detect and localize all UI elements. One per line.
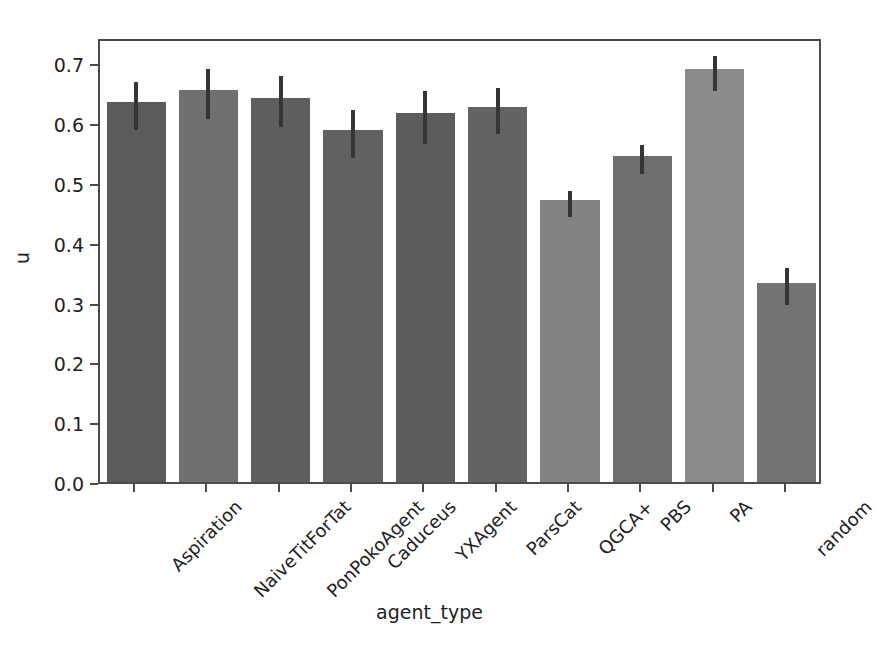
x-tick-label: Aspiration [167, 496, 246, 575]
error-bar [351, 110, 355, 158]
x-tick-mark [639, 484, 641, 492]
bar [685, 69, 744, 482]
bar [251, 98, 310, 482]
plot-area [100, 41, 819, 482]
y-tick-label: 0.7 [0, 54, 84, 76]
error-bar [496, 88, 500, 134]
x-tick-label: random [811, 496, 875, 560]
bar [468, 107, 527, 482]
x-tick-label: PA [725, 496, 755, 526]
y-tick-label: 0.1 [0, 413, 84, 435]
bar [540, 200, 599, 482]
y-tick-mark [90, 184, 98, 186]
y-tick-label: 0.0 [0, 473, 84, 495]
error-bar [206, 69, 210, 119]
x-tick-mark [422, 484, 424, 492]
x-tick-mark [495, 484, 497, 492]
error-bar [568, 191, 572, 217]
x-tick-mark [712, 484, 714, 492]
y-tick-label: 0.2 [0, 353, 84, 375]
x-tick-mark [784, 484, 786, 492]
y-tick-label: 0.5 [0, 174, 84, 196]
y-tick-mark [90, 304, 98, 306]
bar [107, 102, 166, 482]
bar [757, 283, 816, 482]
x-axis-label: agent_type [0, 601, 859, 623]
x-tick-label: QGCA+ [594, 496, 657, 559]
y-tick-label: 0.4 [0, 234, 84, 256]
y-tick-mark [90, 423, 98, 425]
x-tick-mark [350, 484, 352, 492]
x-tick-mark [567, 484, 569, 492]
error-bar [279, 76, 283, 127]
x-tick-mark [278, 484, 280, 492]
bar [323, 130, 382, 482]
x-tick-label: PBS [656, 496, 695, 535]
y-tick-label: 0.3 [0, 294, 84, 316]
y-tick-mark [90, 363, 98, 365]
error-bar [713, 56, 717, 91]
x-tick-mark [205, 484, 207, 492]
bar [613, 156, 672, 482]
x-tick-mark [133, 484, 135, 492]
bar [396, 113, 455, 482]
error-bar [134, 82, 138, 130]
bar [179, 90, 238, 482]
x-tick-label: ParsCat [522, 496, 585, 559]
error-bar [423, 91, 427, 144]
y-tick-mark [90, 64, 98, 66]
plot-frame [98, 39, 821, 484]
y-tick-mark [90, 124, 98, 126]
x-tick-label: YXAgent [452, 496, 521, 565]
error-bar [785, 268, 789, 305]
y-tick-mark [90, 244, 98, 246]
y-tick-mark [90, 483, 98, 485]
y-tick-label: 0.6 [0, 114, 84, 136]
error-bar [640, 145, 644, 174]
